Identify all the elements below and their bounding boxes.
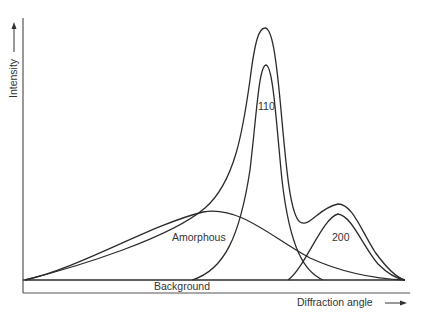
right-arrow-icon — [400, 301, 407, 306]
diffraction-diagram: Intensity Diffraction angle 110 200 Amor… — [0, 0, 427, 322]
amorphous-curve — [25, 211, 405, 280]
peak-200-label: 200 — [332, 231, 350, 243]
peak-200-curve — [288, 214, 405, 280]
amorphous-label: Amorphous — [172, 231, 226, 243]
up-arrow-icon — [12, 22, 17, 29]
y-axis-label: Intensity — [7, 58, 19, 98]
x-axis-label: Diffraction angle — [297, 296, 373, 308]
y-axis-label-group: Intensity — [7, 22, 19, 98]
x-axis-label-group: Diffraction angle — [297, 296, 407, 308]
peak-110-label: 110 — [258, 100, 275, 112]
background-label: Background — [154, 280, 210, 292]
peak-110-curve — [192, 65, 323, 280]
